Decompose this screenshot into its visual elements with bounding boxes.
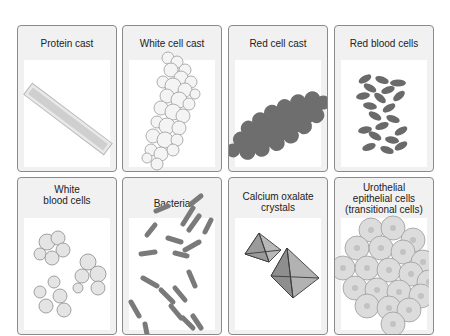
white-blood-cells-illustration bbox=[18, 178, 117, 335]
red-blood-cells-illustration bbox=[335, 26, 434, 172]
panel-red-cell-cast: Red cell cast bbox=[228, 25, 328, 172]
protein-cast-illustration bbox=[18, 26, 117, 172]
panel-urothelial-epithelial-cells: Urothelial epithelial cells (transitiona… bbox=[334, 177, 434, 335]
white-cell-cast-illustration bbox=[123, 26, 222, 172]
red-cell-cast-illustration bbox=[229, 26, 328, 172]
panel-bacteria: Bacteria bbox=[122, 177, 222, 335]
panel-white-cell-cast: White cell cast bbox=[122, 25, 222, 172]
calcium-oxalate-crystals-illustration bbox=[229, 178, 328, 335]
bacteria-illustration bbox=[123, 178, 222, 335]
urothelial-epithelial-cells-illustration bbox=[334, 178, 429, 335]
panel-calcium-oxalate-crystals: Calcium oxalate crystals bbox=[228, 177, 328, 335]
panel-protein-cast: Protein cast bbox=[17, 25, 117, 172]
panel-red-blood-cells: Red blood cells bbox=[334, 25, 434, 172]
panel-white-blood-cells: White blood cells bbox=[17, 177, 117, 335]
